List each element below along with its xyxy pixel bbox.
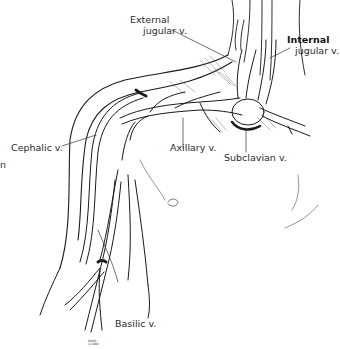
label-subclavian: Subclavian v. — [224, 153, 287, 163]
signature-line2: ©1990 — [88, 343, 99, 346]
chest-outline — [140, 160, 318, 228]
label-edge-fragment: n — [0, 160, 6, 170]
basilic-vein — [65, 180, 121, 332]
leader-internal-jugular — [270, 48, 290, 58]
anatomy-figure: External jugular v. Internal jugular v. … — [0, 0, 340, 349]
label-internal-jugular-line2: jugular v. — [295, 46, 339, 56]
label-basilic: Basilic v. — [115, 319, 156, 329]
label-cephalic: Cephalic v. — [11, 143, 63, 153]
external-jugular-vein — [235, 20, 244, 50]
label-external-jugular-line2: jugular v. — [143, 26, 187, 36]
label-internal-jugular-line1: Internal — [287, 35, 329, 45]
leader-cephalic — [62, 135, 96, 146]
artist-signature: MAYO ©1990 — [88, 340, 99, 346]
label-axillary: Axillary v. — [170, 143, 216, 153]
vein-illustration — [0, 0, 340, 349]
label-external-jugular-line1: External — [130, 15, 169, 25]
